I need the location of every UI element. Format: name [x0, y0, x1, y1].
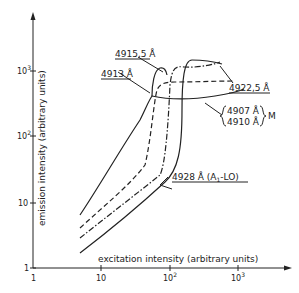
right-brace [260, 106, 266, 126]
curve-4922-5 [80, 62, 220, 238]
y-axis-title: emission intensity (arbitrary units) [37, 70, 47, 226]
label-M: M [268, 111, 276, 121]
label-4928-A1-LO: 4928 Å (A1-LO) [172, 171, 239, 183]
y-tick-10: 10 [18, 199, 28, 208]
label-4915-5: 4915,5 Å [115, 48, 156, 59]
curve-4915-knee [152, 68, 167, 96]
emission-excitation-chart: 103 102 10 1 1 10 102 103 excitation int… [0, 0, 299, 293]
label-4910: 4910 Å [227, 116, 260, 127]
y-axis-arrow-icon [31, 12, 36, 20]
curve-4913 [80, 89, 244, 215]
leader-4928b [160, 185, 172, 189]
x-tick-1000: 103 [231, 271, 245, 283]
curve-4915-5 [80, 81, 235, 228]
y-tick-1000: 103 [17, 64, 31, 76]
x-tick-100: 102 [163, 271, 177, 283]
y-tick-1: 1 [24, 264, 29, 273]
left-brace [220, 106, 226, 126]
curve-4928-A1-LO [80, 60, 222, 253]
y-tick-100: 102 [17, 129, 31, 141]
x-tick-1: 1 [31, 274, 36, 283]
x-axis-arrow-icon [284, 266, 292, 271]
x-tick-10: 10 [96, 274, 106, 283]
leader-4922-5 [220, 66, 233, 83]
x-axis-title: excitation intensity (arbitrary units) [98, 254, 258, 264]
label-4922-5: 4922,5 Å [229, 82, 270, 93]
leader-M [205, 103, 222, 115]
label-4913: 4913 Å [101, 68, 134, 79]
label-4907: 4907 Å [227, 105, 260, 116]
